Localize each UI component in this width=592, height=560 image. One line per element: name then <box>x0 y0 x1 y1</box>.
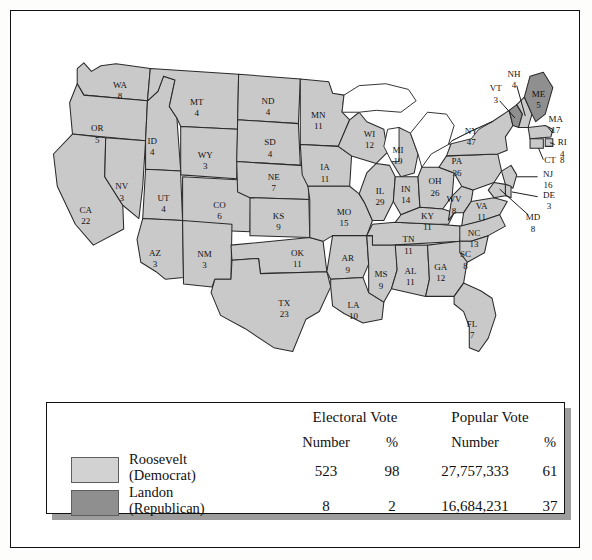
roosevelt-electoral-percent: 98 <box>372 463 412 480</box>
state-votes-NV: 3 <box>120 193 125 203</box>
state-votes-VT: 3 <box>494 95 499 105</box>
landon-electoral-percent: 2 <box>372 498 412 515</box>
state-code-MD: MD <box>526 212 541 222</box>
state-votes-OK: 11 <box>293 259 302 269</box>
state-shape-RI[interactable] <box>545 139 553 147</box>
landon-electoral-number: 8 <box>287 498 365 515</box>
state-votes-MS: 9 <box>379 281 384 291</box>
candidate-roosevelt: Roosevelt (Democrat) <box>129 451 196 483</box>
state-label-IL: IL29 <box>376 186 386 207</box>
state-code-ME: ME <box>532 89 546 99</box>
state-votes-NC: 13 <box>470 239 479 249</box>
state-votes-IN: 14 <box>401 195 410 205</box>
state-votes-WA: 8 <box>118 91 123 101</box>
state-code-CT: CT <box>544 155 556 165</box>
candidate-party: (Democrat) <box>129 467 196 483</box>
candidate-name: Roosevelt <box>129 451 187 467</box>
state-label-NJ: NJ16 <box>543 169 553 190</box>
state-shape-MD[interactable] <box>488 182 505 197</box>
state-votes-FL: 7 <box>470 330 475 340</box>
state-votes-PA: 36 <box>452 168 462 178</box>
state-votes-SD: 4 <box>268 149 273 159</box>
swatch-republican <box>71 490 119 516</box>
state-code-CO: CO <box>213 200 226 210</box>
legend-row-roosevelt: Roosevelt (Democrat) 523 98 27,757,333 6… <box>47 455 564 489</box>
state-votes-WY: 3 <box>203 161 208 171</box>
state-code-WV: WV <box>447 194 462 204</box>
state-shape-NY[interactable] <box>447 110 513 156</box>
state-votes-LA: 10 <box>349 311 359 321</box>
state-code-AZ: AZ <box>149 248 161 258</box>
state-votes-IL: 29 <box>376 197 386 207</box>
state-code-GA: GA <box>434 262 447 272</box>
state-code-ID: ID <box>147 136 157 146</box>
roosevelt-electoral-number: 523 <box>287 463 365 480</box>
state-code-MN: MN <box>311 110 326 120</box>
state-votes-DE: 3 <box>547 201 552 211</box>
state-code-NY: NY <box>465 126 478 136</box>
state-votes-SC: 8 <box>463 261 468 271</box>
state-votes-NE: 7 <box>271 183 276 193</box>
state-votes-NJ: 16 <box>544 180 554 190</box>
state-code-DE: DE <box>543 190 555 200</box>
subheader-electoral-percent: % <box>372 434 412 451</box>
state-votes-MI: 19 <box>394 156 404 166</box>
state-votes-NM: 3 <box>202 260 207 270</box>
state-code-PA: PA <box>452 156 463 166</box>
state-label-NC: NC13 <box>468 228 481 249</box>
state-votes-WV: 8 <box>452 206 457 216</box>
state-shape-CT[interactable] <box>530 139 543 148</box>
candidate-landon: Landon (Republican) <box>129 484 205 516</box>
state-code-WA: WA <box>113 80 127 90</box>
state-code-WY: WY <box>198 150 213 160</box>
state-code-NV: NV <box>115 181 128 191</box>
header-electoral-vote: Electoral Vote <box>290 409 420 426</box>
state-label-PA: PA36 <box>452 156 463 177</box>
state-votes-WI: 12 <box>365 140 374 150</box>
state-votes-NY: 47 <box>467 137 477 147</box>
state-code-OK: OK <box>291 248 304 258</box>
state-votes-KY: 11 <box>423 222 432 232</box>
header-popular-vote: Popular Vote <box>425 409 555 426</box>
roosevelt-popular-number: 27,757,333 <box>421 463 529 480</box>
state-code-VT: VT <box>490 83 502 93</box>
state-shape-DE[interactable] <box>505 184 511 197</box>
state-code-MO: MO <box>337 207 352 217</box>
legend-panel: Electoral Vote Popular Vote Number % Num… <box>46 402 565 514</box>
state-code-OR: OR <box>91 123 104 133</box>
state-votes-TX: 23 <box>280 309 290 319</box>
state-code-WI: WI <box>364 129 376 139</box>
state-code-RI: RI <box>558 137 567 147</box>
leader-DE <box>512 192 538 197</box>
candidate-party: (Republican) <box>129 500 205 516</box>
state-shape-FL[interactable] <box>454 283 496 351</box>
state-code-UT: UT <box>158 193 170 203</box>
state-code-KY: KY <box>421 211 434 221</box>
swatch-democrat <box>71 457 119 483</box>
state-votes-IA: 11 <box>321 174 330 184</box>
state-code-CA: CA <box>79 205 92 215</box>
landon-popular-percent: 37 <box>537 498 563 515</box>
map-svg: WA8OR5CA22NV3ID4MT4WY3UT4CO6AZ3NM3ND4SD4… <box>25 25 587 395</box>
state-code-SD: SD <box>264 137 276 147</box>
state-votes-ID: 4 <box>150 147 155 157</box>
state-votes-MO: 15 <box>339 218 348 228</box>
state-code-OH: OH <box>429 176 442 186</box>
state-votes-NH: 4 <box>512 80 517 90</box>
subheader-popular-number: Number <box>421 434 529 451</box>
state-votes-AZ: 3 <box>153 259 158 269</box>
state-label-DE: DE3 <box>543 190 555 211</box>
state-code-NM: NM <box>197 249 212 259</box>
state-votes-CO: 6 <box>217 211 222 221</box>
lake-superior <box>342 84 416 112</box>
state-votes-MD: 8 <box>531 224 536 234</box>
state-shape-MA[interactable] <box>528 126 553 139</box>
state-votes-MT: 4 <box>195 108 200 118</box>
state-code-KS: KS <box>273 211 285 221</box>
state-code-NE: NE <box>268 172 280 182</box>
state-votes-CT: 8 <box>560 155 565 165</box>
subheader-popular-percent: % <box>537 434 563 451</box>
state-votes-AL: 11 <box>406 277 415 287</box>
state-votes-UT: 4 <box>161 204 166 214</box>
state-votes-VA: 11 <box>477 212 486 222</box>
